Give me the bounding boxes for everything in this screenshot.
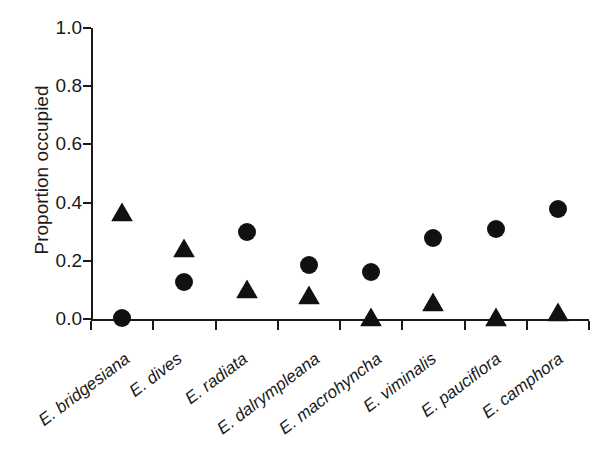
data-point-triangle <box>173 239 195 258</box>
y-axis-line <box>91 28 93 321</box>
x-axis-tick <box>277 321 279 330</box>
data-point-triangle <box>111 203 133 222</box>
x-axis-tick <box>526 321 528 330</box>
data-point-triangle <box>422 293 444 312</box>
data-point-circle <box>424 229 442 247</box>
plot-area: E. bridgesianaE. divesE. radiataE. dalry… <box>0 0 604 472</box>
x-axis-tick <box>464 321 466 330</box>
x-axis-tick <box>90 321 92 330</box>
x-axis-tick-label: E. radiata <box>181 349 251 409</box>
x-axis-tick <box>588 321 590 330</box>
x-axis-tick <box>401 321 403 330</box>
x-axis-tick <box>339 321 341 330</box>
y-axis-tick <box>83 85 91 87</box>
y-axis-tick <box>83 318 91 320</box>
data-point-circle <box>362 263 380 281</box>
data-point-circle <box>487 220 505 238</box>
y-axis-tick <box>83 143 91 145</box>
y-axis-tick <box>83 27 91 29</box>
data-point-triangle <box>485 307 507 326</box>
data-point-triangle <box>547 302 569 321</box>
y-axis-tick <box>83 260 91 262</box>
y-axis-tick <box>83 202 91 204</box>
data-point-triangle <box>298 286 320 305</box>
x-axis-tick <box>152 321 154 330</box>
data-point-circle <box>175 273 193 291</box>
x-axis-tick-label: E. dives <box>126 349 186 401</box>
data-point-circle <box>549 200 567 218</box>
data-point-circle <box>238 223 256 241</box>
scatter-chart-figure: Proportion occupied 0.00.20.40.60.81.0 E… <box>0 0 604 472</box>
data-point-circle <box>300 256 318 274</box>
data-point-triangle <box>360 307 382 326</box>
x-axis-tick <box>215 321 217 330</box>
data-point-triangle <box>236 280 258 299</box>
data-point-circle <box>113 309 131 327</box>
x-axis-tick-label: E. bridgesiana <box>35 349 134 430</box>
